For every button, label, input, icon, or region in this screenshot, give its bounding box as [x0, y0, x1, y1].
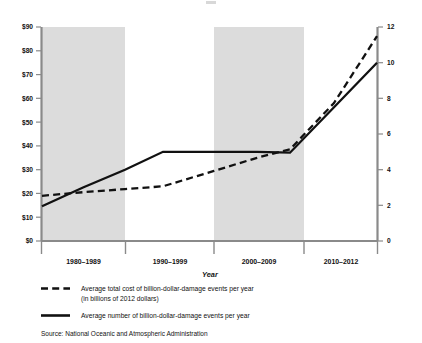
y-left-tick-label-20: $20 [22, 190, 33, 198]
category-divider-group [42, 241, 378, 254]
legend-label-count-line1: Average number of billion-dollar-damage … [81, 312, 250, 320]
y-right-tick-label-4: 4 [387, 166, 391, 173]
x-category-label-2: 2000–2009 [242, 258, 277, 265]
y-left-tick-label-80: $80 [22, 47, 33, 55]
chart-plot: $90 $80 $70 $60 $50 $40 $30 $20 $10 $0 1… [0, 0, 422, 343]
x-axis-category-labels: 1980–1989 1990–1999 2000–2009 2010–2012 [66, 258, 358, 265]
y-left-tick-label-30: $30 [22, 166, 33, 174]
shaded-band-2000-2009 [214, 27, 304, 241]
y-axis-left-ticks: $90 $80 $70 $60 $50 $40 $30 $20 $10 $0 [22, 23, 41, 245]
y-left-tick-label-50: $50 [22, 119, 33, 127]
y-left-tick-label-90: $90 [22, 23, 33, 31]
shaded-band-group [42, 27, 304, 241]
y-right-tick-label-2: 2 [387, 202, 391, 209]
y-left-tick-label-10: $10 [22, 214, 33, 222]
x-axis-title: Year [202, 270, 219, 279]
y-left-tick-label-40: $40 [22, 142, 33, 150]
y-right-tick-label-6: 6 [387, 130, 391, 137]
legend-label-cost-line1: Average total cost of billion-dollar-dam… [81, 285, 255, 293]
y-left-tick-label-70: $70 [22, 71, 33, 79]
y-right-tick-label-10: 10 [387, 59, 395, 66]
y-right-tick-label-12: 12 [387, 23, 395, 30]
chart-legend: Average total cost of billion-dollar-dam… [41, 285, 255, 320]
legend-label-cost-line2: (in billions of 2012 dollars) [81, 295, 159, 303]
y-left-tick-label-0: $0 [26, 237, 34, 245]
x-category-label-0: 1980–1989 [66, 258, 101, 265]
y-axis-right-ticks: 12 10 8 6 4 2 0 [378, 23, 395, 244]
chart-figure: $90 $80 $70 $60 $50 $40 $30 $20 $10 $0 1… [0, 0, 422, 343]
y-right-tick-label-8: 8 [387, 95, 391, 102]
shaded-band-1980-1989 [42, 27, 125, 241]
source-note: Source: National Oceanic and Atmospheric… [41, 330, 208, 338]
y-left-tick-label-60: $60 [22, 95, 33, 103]
x-category-label-1: 1990–1999 [153, 258, 188, 265]
y-right-tick-label-0: 0 [387, 237, 391, 244]
x-category-label-3: 2010–2012 [324, 258, 359, 265]
